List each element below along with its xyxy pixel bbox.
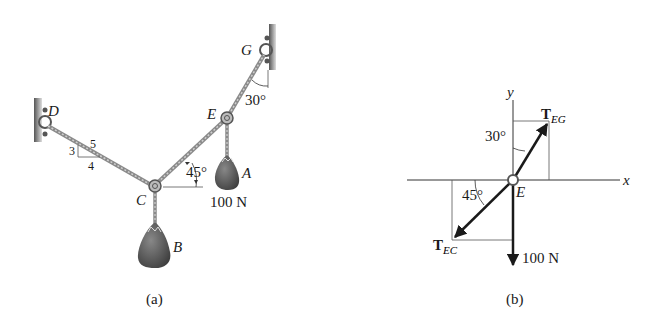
cable-dc xyxy=(48,126,153,186)
force-teg-label: TEG xyxy=(541,106,566,125)
label-e: E xyxy=(206,106,216,122)
axis-x-label: x xyxy=(622,172,630,188)
weight-a-label: 100 N xyxy=(210,194,247,210)
label-c: C xyxy=(136,192,147,208)
wall-g-icon xyxy=(260,24,276,70)
angle-30-label: 30° xyxy=(245,92,266,108)
weight-a-icon xyxy=(215,155,239,190)
label-d: D xyxy=(47,103,59,119)
label-g: G xyxy=(241,42,252,58)
angle-30-label-b: 30° xyxy=(485,128,506,144)
angle-45-label: 45° xyxy=(186,164,207,180)
angle-30-arc xyxy=(513,148,525,151)
label-b: B xyxy=(173,239,182,255)
figure-b: y x E TEG TEC 30° 45° 100 N (b) xyxy=(407,84,630,308)
caption-a: (a) xyxy=(146,291,163,308)
load-label: 100 N xyxy=(522,250,559,266)
ring-c-icon xyxy=(149,180,161,192)
caption-b: (b) xyxy=(506,291,524,308)
label-a: A xyxy=(241,165,252,181)
force-teg-arrow xyxy=(513,124,547,180)
ring-e-icon xyxy=(221,112,233,124)
axis-y-label: y xyxy=(505,84,514,100)
weight-b-icon xyxy=(138,222,170,268)
slope-hyp: 5 xyxy=(90,137,96,151)
angle-45-label-b: 45° xyxy=(462,187,483,203)
statics-diagram: D C E G A B 3 4 5 45° 30° 100 N (a) xyxy=(0,0,653,331)
cable-eg xyxy=(227,55,264,118)
slope-run: 4 xyxy=(88,159,94,173)
figure-a: D C E G A B 3 4 5 45° 30° 100 N (a) xyxy=(34,24,276,308)
origin-e-label: E xyxy=(515,184,525,200)
slope-rise: 3 xyxy=(69,144,75,158)
